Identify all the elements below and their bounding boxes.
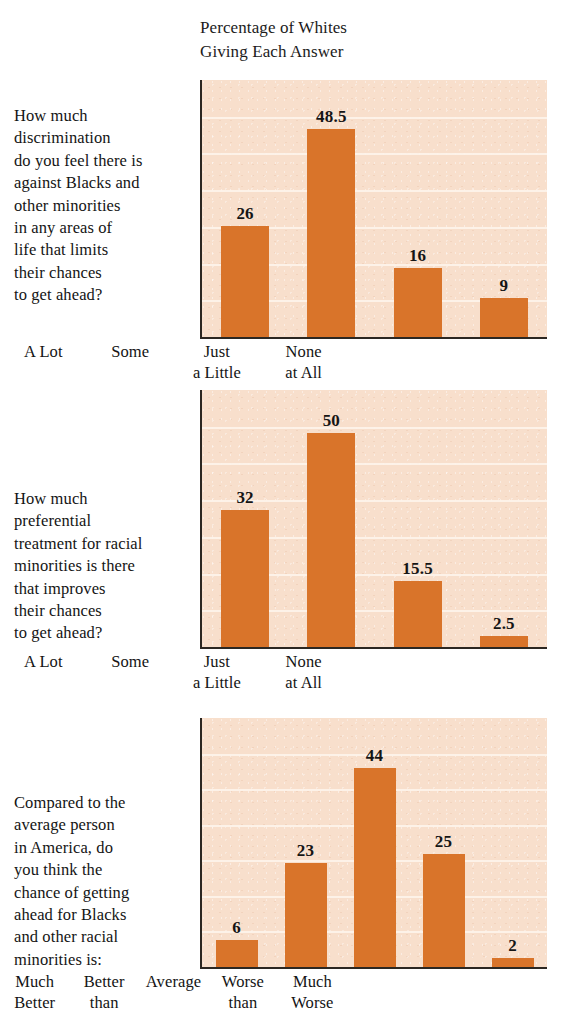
category-labels-3: Much BetterBetter thanAverageWorse thanM… (0, 971, 347, 1013)
bar[interactable]: 32 (221, 510, 269, 647)
bar[interactable]: 9 (480, 298, 528, 337)
bar-slot: 25 (409, 718, 478, 967)
bar-value-label: 48.5 (316, 107, 347, 127)
category-label: Better than (69, 971, 138, 1013)
plot-area-3: 62344252 (200, 718, 548, 969)
category-label: Just a Little (174, 651, 261, 693)
chart-panel-2: How much preferential treatment for raci… (0, 390, 582, 718)
bar[interactable]: 2 (492, 958, 534, 967)
category-label: None at All (260, 651, 347, 693)
chart-panel-1: How much discrimination do you feel ther… (0, 0, 582, 390)
bar-group-1: 2648.5169 (202, 80, 547, 337)
bar-slot: 44 (340, 718, 409, 967)
bar-slot: 32 (202, 390, 288, 647)
bar[interactable]: 2.5 (480, 636, 528, 647)
plot-canvas-3: 62344252 (200, 718, 547, 969)
question-text-2: How much preferential treatment for raci… (14, 488, 200, 645)
bar[interactable]: 25 (423, 854, 465, 967)
category-label: Worse than (208, 971, 277, 1013)
category-labels-1: A LotSomeJust a LittleNone at All (0, 341, 347, 383)
bar-slot: 15.5 (375, 390, 461, 647)
bar-value-label: 26 (236, 204, 253, 224)
bar-slot: 23 (271, 718, 340, 967)
question-text-1: How much discrimination do you feel ther… (14, 105, 200, 307)
bar-value-label: 44 (366, 746, 383, 766)
bar-slot: 26 (202, 80, 288, 337)
category-label: A Lot (0, 341, 87, 383)
plot-canvas-1: 2648.5169 (200, 80, 547, 339)
bar-value-label: 6 (232, 918, 241, 938)
bar-value-label: 23 (297, 841, 314, 861)
category-label: Average (139, 971, 208, 1013)
bar[interactable]: 15.5 (394, 581, 442, 647)
bar-slot: 6 (202, 718, 271, 967)
bar-group-2: 325015.52.5 (202, 390, 547, 647)
question-text-3: Compared to the average person in Americ… (14, 792, 200, 971)
bar-value-label: 50 (323, 411, 340, 431)
bar-slot: 50 (288, 390, 374, 647)
plot-canvas-2: 325015.52.5 (200, 390, 547, 649)
chart-panel-3: Compared to the average person in Americ… (0, 718, 582, 1028)
plot-area-1: 2648.5169 (200, 80, 548, 339)
bar-value-label: 2.5 (493, 614, 515, 634)
bar-value-label: 32 (236, 488, 253, 508)
bar[interactable]: 16 (394, 268, 442, 337)
bar[interactable]: 6 (216, 940, 258, 967)
bar-slot: 2.5 (461, 390, 547, 647)
bar-value-label: 2 (508, 936, 517, 956)
category-label: Much Better (0, 971, 69, 1013)
bar-slot: 2 (478, 718, 547, 967)
bar-value-label: 15.5 (402, 559, 433, 579)
bar-slot: 9 (461, 80, 547, 337)
bar-value-label: 16 (409, 246, 426, 266)
bar-value-label: 25 (435, 832, 452, 852)
bar-slot: 48.5 (288, 80, 374, 337)
bar-slot: 16 (375, 80, 461, 337)
category-label: A Lot (0, 651, 87, 693)
category-label: Just a Little (174, 341, 261, 383)
bar[interactable]: 23 (285, 863, 327, 967)
bar[interactable]: 44 (354, 768, 396, 967)
bar[interactable]: 48.5 (307, 129, 355, 337)
bar-group-3: 62344252 (202, 718, 547, 967)
category-label: Much Worse (278, 971, 347, 1013)
bar[interactable]: 50 (307, 433, 355, 647)
bar-value-label: 9 (500, 276, 509, 296)
plot-area-2: 325015.52.5 (200, 390, 548, 649)
bar[interactable]: 26 (221, 226, 269, 337)
category-label: Some (87, 651, 174, 693)
category-label: None at All (260, 341, 347, 383)
category-label: Some (87, 341, 174, 383)
category-labels-2: A LotSomeJust a LittleNone at All (0, 651, 347, 693)
